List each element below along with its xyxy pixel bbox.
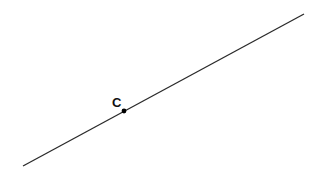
- point-label: C: [112, 95, 122, 110]
- geometry-diagram: C: [0, 0, 322, 172]
- point-c: [122, 109, 127, 114]
- line: [23, 14, 304, 166]
